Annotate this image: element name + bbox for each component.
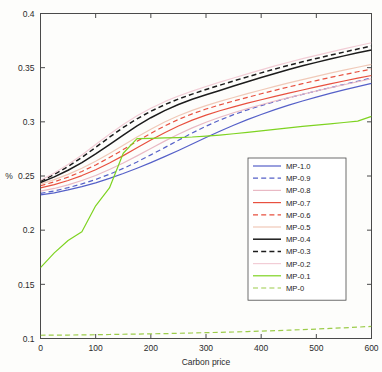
x-tick-label: 500 [309, 343, 323, 353]
x-tick-label: 600 [364, 343, 378, 353]
legend-label-mp-0: MP-0 [286, 284, 304, 293]
series-line-mp-0 [41, 326, 372, 335]
legend-label-mp-0-2: MP-0.2 [286, 260, 310, 269]
x-tick-label: 300 [199, 343, 213, 353]
legend-label-mp-0-7: MP-0.7 [286, 199, 310, 208]
x-tick-label: 200 [144, 343, 158, 353]
y-axis-title: % [5, 171, 13, 181]
y-tick-label: 0.2 [23, 225, 35, 235]
y-tick-label: 0.3 [23, 117, 35, 127]
legend-label-mp-0-6: MP-0.6 [286, 211, 310, 220]
chart-figure: 0100200300400500600Carbon price0.10.150.… [0, 0, 382, 372]
x-tick-label: 0 [38, 343, 43, 353]
y-tick-label: 0.1 [23, 334, 35, 344]
legend-label-mp-0-3: MP-0.3 [286, 247, 310, 256]
x-axis-title: Carbon price [182, 357, 231, 367]
legend-label-mp-0-8: MP-0.8 [286, 186, 310, 195]
legend-label-mp-1-0: MP-1.0 [286, 162, 310, 171]
legend: MP-1.0MP-0.9MP-0.8MP-0.7MP-0.6MP-0.5MP-0… [248, 158, 346, 300]
x-tick-label: 100 [89, 343, 103, 353]
y-tick-label: 0.25 [18, 171, 35, 181]
legend-label-mp-0-4: MP-0.4 [286, 235, 310, 244]
legend-label-mp-0-5: MP-0.5 [286, 223, 310, 232]
y-tick-label: 0.15 [18, 280, 35, 290]
y-tick-label: 0.35 [18, 63, 35, 73]
legend-label-mp-0-1: MP-0.1 [286, 272, 310, 281]
x-tick-label: 400 [254, 343, 268, 353]
legend-label-mp-0-9: MP-0.9 [286, 174, 310, 183]
line-chart: 0100200300400500600Carbon price0.10.150.… [0, 0, 382, 372]
y-tick-label: 0.4 [23, 9, 35, 19]
